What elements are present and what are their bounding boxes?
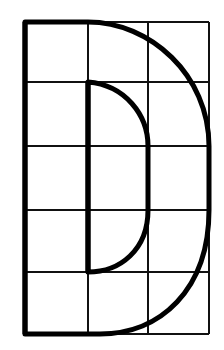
letter-d-grid-diagram (0, 0, 224, 350)
background (0, 0, 224, 350)
